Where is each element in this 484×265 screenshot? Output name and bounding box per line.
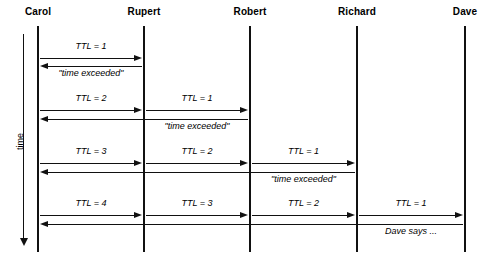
message-label-forward: TTL = 2 <box>75 93 106 103</box>
actor-label-robert: Robert <box>234 6 267 17</box>
message-label-reply: "time exceeded" <box>165 121 230 131</box>
actor-label-dave: Dave <box>453 6 477 17</box>
message-label-forward: TTL = 4 <box>75 198 106 208</box>
arrowhead-left-icon <box>40 63 48 69</box>
lifeline-robert <box>249 26 251 252</box>
lifeline-dave <box>464 26 466 252</box>
message-arrow-forward <box>146 110 241 111</box>
arrowhead-right-icon <box>347 212 355 218</box>
message-arrow-forward <box>40 110 135 111</box>
actor-label-carol: Carol <box>25 6 51 17</box>
message-arrow-reply <box>47 172 355 173</box>
message-label-forward: TTL = 2 <box>288 198 319 208</box>
message-arrow-forward <box>40 163 135 164</box>
message-arrow-forward <box>359 215 456 216</box>
message-label-reply: "time exceeded" <box>59 68 124 78</box>
actor-label-richard: Richard <box>338 6 376 17</box>
message-arrow-reply <box>47 119 248 120</box>
arrowhead-right-icon <box>347 160 355 166</box>
arrowhead-right-icon <box>240 107 248 113</box>
message-arrow-forward <box>252 163 348 164</box>
lifeline-carol <box>37 26 39 252</box>
actor-label-rupert: Rupert <box>128 6 161 17</box>
lifeline-richard <box>356 26 358 252</box>
message-label-reply: "time exceeded" <box>271 174 336 184</box>
arrowhead-left-icon <box>40 221 48 227</box>
message-arrow-reply <box>47 66 142 67</box>
arrowhead-right-icon <box>134 55 142 61</box>
arrowhead-left-icon <box>40 169 48 175</box>
arrowhead-right-icon <box>455 212 463 218</box>
arrowhead-right-icon <box>240 160 248 166</box>
message-arrow-forward <box>40 58 135 59</box>
arrowhead-right-icon <box>134 107 142 113</box>
message-label-forward: TTL = 1 <box>395 198 426 208</box>
message-label-forward: TTL = 1 <box>288 146 319 156</box>
message-label-forward: TTL = 1 <box>75 41 106 51</box>
arrowhead-right-icon <box>134 160 142 166</box>
time-axis-label: time <box>15 133 25 150</box>
message-arrow-forward <box>40 215 135 216</box>
message-arrow-forward <box>252 215 348 216</box>
message-arrow-forward <box>146 163 241 164</box>
message-label-forward: TTL = 2 <box>181 146 212 156</box>
sequence-diagram: CarolRupertRobertRichardDavetimeTTL = 1"… <box>0 0 484 265</box>
message-label-forward: TTL = 1 <box>181 93 212 103</box>
time-axis-arrowhead-icon <box>20 238 28 246</box>
message-label-reply: Dave says ... <box>385 226 437 236</box>
message-arrow-forward <box>146 215 241 216</box>
arrowhead-right-icon <box>240 212 248 218</box>
message-label-forward: TTL = 3 <box>75 146 106 156</box>
lifeline-rupert <box>143 26 145 252</box>
message-label-forward: TTL = 3 <box>181 198 212 208</box>
arrowhead-right-icon <box>134 212 142 218</box>
message-arrow-reply <box>47 224 463 225</box>
arrowhead-left-icon <box>40 116 48 122</box>
